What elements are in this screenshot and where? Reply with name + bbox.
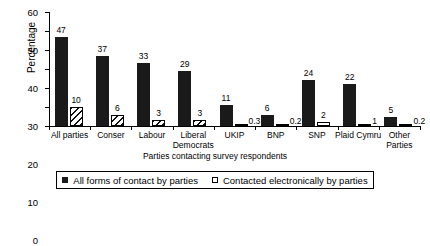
bar-value-label: 11	[214, 94, 239, 103]
y-tick-label: 60	[27, 7, 38, 18]
x-tick	[49, 126, 50, 130]
bar-chart: Percentage 0102030405060 471037633329311…	[0, 0, 430, 200]
x-tick	[90, 126, 91, 130]
x-category-label: Other Parties	[375, 131, 424, 150]
bar-all-forms	[343, 84, 356, 126]
bar-value-label: 22	[337, 73, 362, 82]
bar-contacted-electronically	[235, 124, 248, 126]
bar-value-label: 37	[90, 45, 115, 54]
bar-contacted-electronically	[358, 124, 371, 126]
bar-value-label: 3	[146, 109, 171, 118]
bar-all-forms	[220, 105, 233, 126]
bar-value-label: 0.2	[413, 117, 430, 126]
bar-value-label: 10	[64, 96, 89, 105]
x-axis-line	[49, 126, 420, 127]
bar-contacted-electronically	[111, 115, 124, 126]
y-tick: 40	[45, 50, 49, 51]
x-tick	[173, 126, 174, 130]
bar-contacted-electronically	[276, 124, 289, 126]
y-tick-label: 10	[27, 197, 38, 208]
legend-label: All forms of contact by parties	[73, 175, 198, 186]
bar-all-forms	[96, 56, 109, 126]
bar-all-forms	[261, 115, 274, 126]
y-tick-label: 0	[33, 235, 38, 246]
bar-contacted-electronically	[70, 107, 83, 126]
x-tick	[296, 126, 297, 130]
legend-swatch-open-icon	[212, 177, 218, 183]
y-tick-label: 40	[27, 83, 38, 94]
bar-value-label: 6	[255, 104, 280, 113]
bar-value-label: 24	[296, 69, 321, 78]
x-tick	[131, 126, 132, 130]
y-tick-label: 50	[27, 45, 38, 56]
bar-value-label: 3	[187, 109, 212, 118]
bar-value-label: 33	[131, 52, 156, 61]
bar-all-forms	[55, 37, 68, 126]
chart-legend: All forms of contact by parties Contacte…	[56, 171, 374, 189]
legend-label: Contacted electronically by parties	[223, 175, 368, 186]
plot-area: 0102030405060 4710376333293110.360.22422…	[49, 12, 420, 126]
x-tick	[255, 126, 256, 130]
x-axis-title: Parties contacting survey respondents	[0, 151, 430, 161]
x-tick	[420, 126, 421, 130]
bar-value-label: 6	[105, 104, 130, 113]
bar-contacted-electronically	[152, 120, 165, 126]
bar-value-label: 47	[49, 26, 74, 35]
y-tick: 20	[45, 88, 49, 89]
bar-value-label: 2	[311, 111, 336, 120]
legend-item-electronic: Contacted electronically by parties	[212, 175, 368, 186]
legend-item-all-forms: All forms of contact by parties	[62, 175, 198, 186]
x-tick	[214, 126, 215, 130]
bar-contacted-electronically	[317, 122, 330, 126]
y-tick: 10	[45, 107, 49, 108]
legend-swatch-solid-icon	[62, 177, 68, 183]
y-tick: 30	[45, 69, 49, 70]
bar-value-label: 29	[172, 60, 197, 69]
bar-value-label: 5	[378, 106, 403, 115]
bar-contacted-electronically	[193, 120, 206, 126]
y-tick-label: 30	[27, 121, 38, 132]
y-tick: 60	[45, 12, 49, 13]
bar-all-forms	[384, 117, 397, 127]
bar-contacted-electronically	[399, 124, 412, 126]
